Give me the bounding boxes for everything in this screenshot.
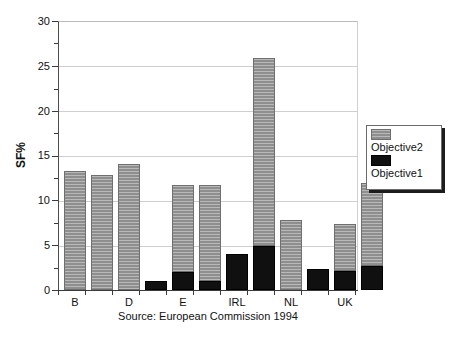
bar-segment-objective1 xyxy=(145,281,167,290)
bar-segment-objective1 xyxy=(199,281,221,290)
x-axis-label-uk: UK xyxy=(325,296,365,309)
x-tick xyxy=(328,290,329,295)
objective1-swatch-icon xyxy=(371,155,391,166)
bar-nl-1[interactable] xyxy=(280,220,302,290)
bar-segment-objective2 xyxy=(361,183,383,266)
bar-segment-objective2 xyxy=(199,185,221,281)
x-tick xyxy=(85,290,86,295)
bar-segment-objective1 xyxy=(172,272,194,290)
x-axis-label-e: E xyxy=(163,296,203,309)
bar-e-2[interactable] xyxy=(199,185,221,290)
bar-segment-objective2 xyxy=(280,220,302,290)
bar-uk-1[interactable] xyxy=(334,224,356,290)
bar-segment-objective1 xyxy=(334,271,356,290)
x-tick xyxy=(301,290,302,295)
y-axis-label-5: 5 xyxy=(28,240,50,250)
bar-segment-objective2 xyxy=(64,171,86,290)
legend-item-objective2[interactable]: Objective2 xyxy=(371,129,439,154)
x-axis-label-irl: IRL xyxy=(217,296,257,309)
y-axis-label-25: 25 xyxy=(28,61,50,71)
y-axis-label-30: 30 xyxy=(28,16,50,26)
x-tick xyxy=(58,290,59,295)
x-tick xyxy=(112,290,113,295)
x-axis-label-b: B xyxy=(55,296,95,309)
bar-b-2[interactable] xyxy=(91,175,113,290)
bar-irl-1[interactable] xyxy=(226,254,248,290)
y-axis-label-0: 0 xyxy=(28,285,50,295)
y-axis-label-15: 15 xyxy=(28,150,50,160)
x-axis-label-d: D xyxy=(109,296,149,309)
bar-series-group xyxy=(58,21,358,290)
legend-label-objective2: Objective2 xyxy=(371,140,439,154)
x-tick xyxy=(139,290,140,295)
legend-item-objective1[interactable]: Objective1 xyxy=(371,155,439,180)
bar-nl-2[interactable] xyxy=(307,269,329,290)
bar-segment-objective2 xyxy=(91,175,113,290)
bar-e-1[interactable] xyxy=(172,185,194,290)
bar-segment-objective2 xyxy=(253,58,275,246)
y-axis-label-10: 10 xyxy=(28,195,50,205)
x-tick xyxy=(166,290,167,295)
bar-b-1[interactable] xyxy=(64,171,86,290)
x-tick xyxy=(247,290,248,295)
bar-segment-objective1 xyxy=(226,254,248,290)
source-caption: Source: European Commission 1994 xyxy=(58,310,358,322)
y-axis-labels: 30 25 20 15 10 5 0 xyxy=(22,0,50,337)
chart-figure: SF% 30 25 20 15 10 5 0 xyxy=(0,0,454,337)
bar-segment-objective1 xyxy=(253,246,275,290)
chart-legend: Objective2 Objective1 xyxy=(366,125,442,190)
x-axis-label-nl: NL xyxy=(271,296,311,309)
bar-irl-2[interactable] xyxy=(253,58,275,290)
x-tick xyxy=(274,290,275,295)
y-axis-label-20: 20 xyxy=(28,106,50,116)
bar-segment-objective1 xyxy=(361,266,383,290)
x-tick xyxy=(355,290,356,295)
bar-segment-objective2 xyxy=(172,185,194,272)
bar-d-1[interactable] xyxy=(118,164,140,290)
bar-d-2[interactable] xyxy=(145,281,167,290)
objective2-swatch-icon xyxy=(371,129,391,140)
x-tick xyxy=(193,290,194,295)
legend-label-objective1: Objective1 xyxy=(371,166,439,180)
bar-segment-objective2 xyxy=(334,224,356,271)
bar-segment-objective1 xyxy=(307,269,329,290)
bar-segment-objective2 xyxy=(118,164,140,290)
x-tick xyxy=(220,290,221,295)
x-axis-line xyxy=(58,290,358,291)
bar-uk-2[interactable] xyxy=(361,183,383,290)
